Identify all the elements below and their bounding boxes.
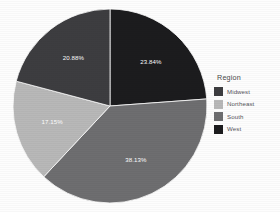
legend-item[interactable]: South	[214, 111, 278, 122]
legend-item-list: MidwestNortheastSouthWest	[214, 86, 278, 135]
legend-item[interactable]: Midwest	[214, 86, 278, 97]
pie-svg: 23.84%38.13%17.15%20.88%	[12, 6, 208, 206]
legend-item-label: Northeast	[227, 101, 254, 107]
legend-item-label: West	[227, 126, 241, 132]
pie-slice-label: 23.84%	[140, 58, 162, 65]
pie-slices	[13, 9, 207, 203]
pie-plot-area: 23.84%38.13%17.15%20.88%	[12, 6, 208, 206]
pie-chart-figure: 23.84%38.13%17.15%20.88% Region MidwestN…	[0, 0, 280, 212]
pie-slice-label: 17.15%	[42, 118, 64, 125]
legend: Region MidwestNortheastSouthWest	[214, 74, 278, 136]
legend-title: Region	[217, 74, 278, 81]
legend-item[interactable]: Northeast	[214, 99, 278, 110]
legend-swatch	[214, 112, 223, 121]
pie-slice-label: 20.88%	[63, 54, 85, 61]
legend-swatch	[214, 125, 223, 134]
legend-item-label: Midwest	[227, 89, 250, 95]
legend-swatch	[214, 87, 223, 96]
legend-item-label: South	[227, 114, 243, 120]
pie-slice-label: 38.13%	[125, 156, 147, 163]
legend-swatch	[214, 100, 223, 109]
legend-item[interactable]: West	[214, 124, 278, 135]
